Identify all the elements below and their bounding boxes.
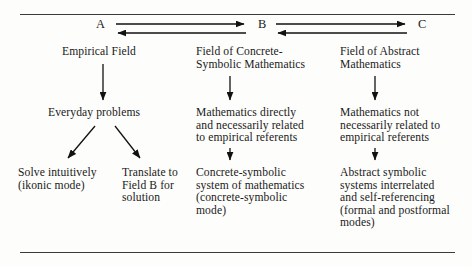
arrow-everyday-to-solve (68, 126, 95, 158)
node-concrete-symbolic-system: Concrete-symbolic system of mathematics … (196, 167, 304, 217)
bottom-horizontal-rule (20, 252, 455, 253)
node-everyday-problems: Everyday problems (48, 107, 140, 120)
axis-letter-b: B (258, 18, 266, 31)
node-mathematics-directly-related: Mathematics directly and necessarily rel… (196, 107, 304, 145)
diagram-figure: A B C Empirical Field Everyday problems … (0, 0, 472, 267)
node-solve-intuitively: Solve intuitively (ikonic mode) (18, 167, 97, 192)
node-abstract-symbolic-systems: Abstract symbolic systems interrelated a… (340, 167, 450, 230)
axis-letter-a: A (96, 18, 105, 31)
node-mathematics-not-necessarily-related: Mathematics not necessarily related to e… (340, 107, 440, 145)
node-translate-to-field-b: Translate to Field B for solution (122, 167, 178, 205)
top-horizontal-rule (20, 14, 455, 15)
node-empirical-field: Empirical Field (62, 46, 136, 59)
node-field-concrete-symbolic: Field of Concrete- Symbolic Mathematics (196, 46, 305, 71)
arrow-everyday-to-translate (115, 126, 140, 158)
axis-letter-c: C (418, 18, 426, 31)
node-field-abstract-mathematics: Field of Abstract Mathematics (340, 46, 420, 71)
